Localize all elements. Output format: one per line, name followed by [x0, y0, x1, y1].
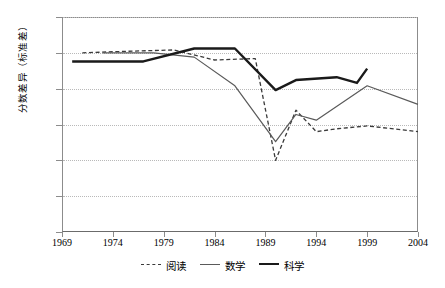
x-axis-tick-label: 1969: [42, 237, 82, 248]
gridline: [63, 196, 417, 197]
y-axis-title: 分数差异（标准差）: [15, 1, 29, 133]
legend-item-math[interactable]: 数学: [200, 258, 245, 273]
gridline: [63, 125, 417, 126]
x-axis-tick-label: 1974: [93, 237, 133, 248]
legend-label: 数学: [225, 258, 245, 273]
gridline: [63, 160, 417, 161]
legend-item-reading[interactable]: 阅读: [141, 258, 186, 273]
legend-label: 阅读: [166, 258, 186, 273]
chart-legend: 阅读 数学 科学: [0, 257, 445, 273]
legend-item-science[interactable]: 科学: [259, 258, 304, 273]
gridline: [63, 53, 417, 54]
x-axis-tick-label: 1999: [347, 237, 387, 248]
plot-area: [62, 17, 418, 232]
y-axis-tick: [56, 196, 62, 197]
gridline: [63, 89, 417, 90]
legend-label: 科学: [284, 258, 304, 273]
dashed-line-icon: [141, 262, 161, 268]
thick-line-icon: [259, 262, 279, 268]
x-axis-tick-label: 1984: [195, 237, 235, 248]
thin-line-icon: [200, 262, 220, 268]
y-axis-tick: [56, 89, 62, 90]
y-axis-tick: [56, 53, 62, 54]
x-axis-tick-label: 1994: [296, 237, 336, 248]
chart-figure: 分数差异（标准差） 阅读 数学 科学 00.250.50.7511.251.51…: [0, 0, 445, 288]
y-axis-tick: [56, 160, 62, 161]
y-axis-tick: [56, 17, 62, 18]
x-axis-tick-label: 1989: [245, 237, 285, 248]
y-axis-tick: [56, 125, 62, 126]
gridline: [63, 17, 417, 18]
x-axis-tick-label: 2004: [398, 237, 438, 248]
x-axis-tick-label: 1979: [144, 237, 184, 248]
